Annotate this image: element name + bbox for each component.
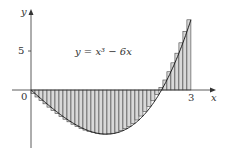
riemann-rectangle — [155, 90, 159, 94]
riemann-rectangle — [123, 90, 127, 129]
y-axis-arrow-icon — [29, 9, 34, 15]
riemann-sum-figure: y x 0 5 3 y = x³ − 6x — [0, 0, 225, 153]
riemann-rectangle — [99, 90, 103, 134]
x-axis-label: x — [211, 92, 217, 103]
riemann-rectangle — [167, 72, 171, 90]
riemann-rectangle — [87, 90, 91, 132]
riemann-rectangle — [111, 90, 115, 133]
riemann-rectangle — [115, 90, 119, 132]
x-tick-3-label: 3 — [188, 92, 194, 103]
riemann-rectangle — [79, 90, 83, 128]
riemann-rectangle — [95, 90, 99, 134]
riemann-rectangle — [63, 90, 67, 119]
riemann-rectangle — [143, 90, 147, 112]
origin-label: 0 — [21, 91, 27, 102]
riemann-rectangle — [131, 90, 135, 123]
riemann-rectangle — [83, 90, 87, 130]
riemann-rectangle — [59, 90, 63, 116]
riemann-rectangle — [179, 43, 183, 90]
riemann-rectangle — [135, 90, 139, 120]
y-tick-5-label: 5 — [18, 45, 24, 56]
plot-area — [0, 0, 225, 153]
riemann-rectangle — [55, 90, 59, 113]
riemann-rectangle — [139, 90, 143, 116]
riemann-rectangle — [91, 90, 95, 133]
riemann-rectangle — [103, 90, 107, 134]
riemann-rectangle — [67, 90, 71, 122]
riemann-rectangle — [151, 90, 155, 101]
riemann-rectangle — [147, 90, 151, 106]
riemann-rectangle — [127, 90, 131, 126]
y-axis-label: y — [21, 6, 27, 17]
riemann-rectangle — [119, 90, 123, 131]
riemann-rectangle — [71, 90, 75, 124]
equation-label: y = x³ − 6x — [75, 46, 132, 57]
riemann-rectangle — [107, 90, 111, 134]
riemann-rectangle — [75, 90, 79, 126]
